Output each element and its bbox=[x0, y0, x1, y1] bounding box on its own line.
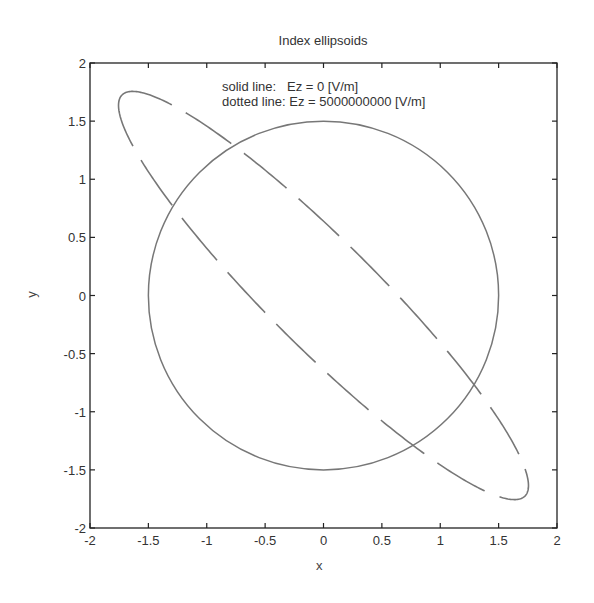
y-tick-label: -0.5 bbox=[64, 347, 86, 362]
dashed-ellipse-curve bbox=[119, 91, 529, 499]
legend-dotted-line: dotted line: Ez = 5000000000 [V/m] bbox=[222, 94, 425, 109]
y-tick-label: 0.5 bbox=[68, 230, 86, 245]
x-tick-label: 0.5 bbox=[373, 533, 391, 548]
solid-circle-curve bbox=[148, 121, 498, 470]
axis-ticks bbox=[90, 63, 557, 528]
legend-annotation: solid line: Ez = 0 [V/m]dotted line: Ez … bbox=[222, 79, 425, 109]
legend-solid-line: solid line: Ez = 0 [V/m] bbox=[222, 79, 425, 94]
y-tick-label: 1 bbox=[79, 172, 86, 187]
x-tick-label: -1 bbox=[201, 533, 213, 548]
axes-box bbox=[90, 63, 557, 528]
y-tick-label: 1.5 bbox=[68, 114, 86, 129]
y-axis-label: y bbox=[24, 291, 39, 298]
x-tick-label: 0 bbox=[320, 533, 327, 548]
y-tick-label: 2 bbox=[79, 56, 86, 71]
x-tick-label: 1 bbox=[437, 533, 444, 548]
y-tick-label: 0 bbox=[79, 289, 86, 304]
x-tick-label: -1.5 bbox=[137, 533, 159, 548]
chart-title: Index ellipsoids bbox=[0, 33, 594, 48]
x-tick-label: 2 bbox=[553, 533, 560, 548]
plot-curves bbox=[119, 91, 529, 499]
y-tick-label: -1.5 bbox=[64, 463, 86, 478]
x-tick-label: 1.5 bbox=[490, 533, 508, 548]
y-tick-label: -1 bbox=[74, 405, 86, 420]
axis-tick-labels: -2-1.5-1-0.500.511.52-2-1.5-1-0.500.511.… bbox=[64, 56, 561, 548]
y-tick-label: -2 bbox=[74, 521, 86, 536]
x-tick-label: -0.5 bbox=[254, 533, 276, 548]
x-axis-label: x bbox=[316, 558, 323, 573]
